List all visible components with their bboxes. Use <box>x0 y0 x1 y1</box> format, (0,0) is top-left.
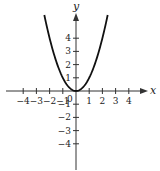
y-tick-label: 2 <box>65 60 71 70</box>
parabola-chart: −4−3−2−11234−4−3−2−11234 x y 0 <box>0 0 160 171</box>
x-tick-label: 4 <box>126 96 132 106</box>
x-axis-arrow-icon <box>140 88 148 94</box>
x-tick-label: −4 <box>17 96 31 106</box>
y-tick-label: 4 <box>65 33 71 43</box>
x-tick-label: −3 <box>30 96 44 106</box>
x-tick-label: 1 <box>86 96 92 106</box>
origin-label: 0 <box>67 94 73 104</box>
x-tick-label: −2 <box>43 96 56 106</box>
x-axis-label: x <box>150 84 157 97</box>
y-axis-label: y <box>72 0 80 13</box>
y-tick-label: −4 <box>58 139 72 149</box>
y-tick-label: −2 <box>58 112 71 122</box>
x-tick-label: 2 <box>100 96 106 106</box>
y-tick-label: 1 <box>65 73 71 83</box>
y-tick-label: 3 <box>65 46 71 56</box>
y-axis-arrow-icon <box>73 13 79 21</box>
x-tick-label: 3 <box>113 96 119 106</box>
y-tick-label: −3 <box>58 126 72 136</box>
